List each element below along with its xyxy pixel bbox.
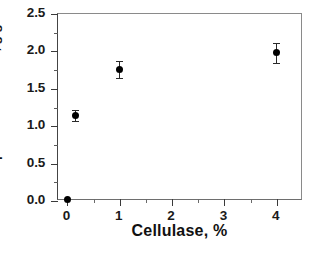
error-bar-cap — [116, 61, 123, 62]
y-axis-tick-label: 2.5 — [0, 5, 45, 20]
x-axis-minor-tick — [198, 199, 199, 203]
x-axis-tick-label: 2 — [151, 208, 191, 223]
x-axis-minor-tick — [251, 199, 252, 203]
y-axis-tick-label: 1.5 — [0, 80, 45, 95]
data-point — [64, 196, 71, 203]
x-axis-major-tick — [224, 199, 225, 206]
y-axis-minor-tick — [54, 33, 58, 34]
y-axis-minor-tick — [54, 145, 58, 146]
y-axis-major-tick — [51, 164, 58, 165]
plot-frame — [57, 13, 302, 200]
y-axis-minor-tick — [54, 182, 58, 183]
x-axis-tick-label: 0 — [46, 208, 86, 223]
error-bar-cap — [273, 63, 280, 64]
x-axis-minor-tick — [94, 199, 95, 203]
data-point — [72, 112, 79, 119]
y-axis-major-tick — [51, 51, 58, 52]
plot-area — [58, 14, 301, 199]
x-axis-tick-label: 4 — [256, 208, 296, 223]
x-axis-tick-label: 1 — [99, 208, 139, 223]
data-point — [116, 66, 123, 73]
x-axis-minor-tick — [146, 199, 147, 203]
y-axis-tick-label: 2.0 — [0, 42, 45, 57]
x-axis-major-tick — [277, 199, 278, 206]
error-bar-cap — [273, 43, 280, 44]
x-axis-title: Cellulase, % — [57, 222, 302, 240]
y-axis-major-tick — [51, 14, 58, 15]
data-point — [273, 49, 280, 56]
y-axis-major-tick — [51, 126, 58, 127]
y-axis-tick-label: 1.0 — [0, 117, 45, 132]
x-axis-tick-label: 3 — [203, 208, 243, 223]
x-axis-major-tick — [120, 199, 121, 206]
y-axis-title: Adsorption of cellulase, g/g PAA — [0, 0, 2, 199]
chart-figure: 0.00.51.01.52.02.5 Adsorption of cellula… — [0, 0, 319, 254]
y-axis-major-tick — [51, 89, 58, 90]
error-bar-cap — [116, 78, 123, 79]
x-axis-major-tick — [172, 199, 173, 206]
y-axis-minor-tick — [54, 70, 58, 71]
y-axis-tick-label: 0.0 — [0, 192, 45, 207]
y-axis-major-tick — [51, 201, 58, 202]
error-bar-cap — [72, 121, 79, 122]
y-axis-minor-tick — [54, 108, 58, 109]
y-axis-tick-label: 0.5 — [0, 155, 45, 170]
